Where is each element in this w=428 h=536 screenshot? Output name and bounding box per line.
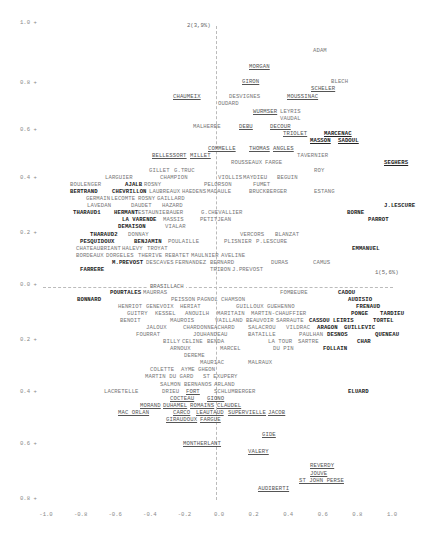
point-label: TRIBON: [210, 267, 231, 273]
x-tick-label: -0.2: [178, 512, 191, 518]
point-label: DEMAISON: [118, 224, 146, 230]
point-label: ROUSSEAUX: [231, 160, 262, 166]
point-label: VAUDAL: [280, 116, 301, 122]
point-label: GUILLEVIC: [344, 325, 375, 331]
point-label: ROY: [314, 168, 324, 174]
y-tick-label: 1.0 +: [20, 20, 37, 26]
point-label: EMMANUEL: [352, 246, 380, 252]
point-label: FOMBEURE: [280, 290, 308, 296]
point-label: CAMUS: [313, 260, 330, 266]
y-tick-label: 0.8 +: [20, 80, 37, 86]
point-label: SUPERVIELLE: [228, 410, 266, 416]
point-label: FERNANDEZ: [175, 260, 206, 266]
point-label: COMMELLE: [208, 146, 236, 152]
x-tick-label: 0.0: [214, 512, 224, 518]
x-tick-label: 0.4: [283, 512, 293, 518]
y-tick-label: 0.8 +: [20, 496, 37, 502]
x-tick-label: -0.8: [74, 512, 87, 518]
point-label: SEGHERS: [384, 160, 408, 166]
point-label: BENOIT: [120, 318, 141, 324]
point-label: FARRERE: [80, 267, 104, 273]
point-label: GIRON: [242, 79, 259, 85]
point-label: ANGLES: [273, 146, 294, 152]
point-label: BORDEAUX: [76, 253, 104, 259]
point-label: TORTEL: [373, 318, 394, 324]
point-label: WURMSER: [253, 109, 277, 115]
point-label: ESTANG: [314, 189, 335, 195]
point-label: JACOB: [268, 410, 285, 416]
point-label: MARTIN DU GARD: [145, 374, 193, 380]
point-label: DESNOS: [327, 332, 348, 338]
point-label: POURTALES: [110, 290, 141, 296]
point-label: M.PREVOST: [112, 260, 143, 266]
point-label: VIALAR: [165, 224, 186, 230]
point-label: MALRAUX: [248, 360, 272, 366]
point-label: FOLLAIN: [323, 346, 347, 352]
point-label: CHAR: [357, 339, 371, 345]
point-label: PLISNIER: [224, 239, 252, 245]
y-tick-label: 0.2 +: [20, 337, 37, 343]
y-tick-label: 0.4 +: [20, 175, 37, 181]
point-label: FARGE: [265, 160, 282, 166]
point-label: QUENEAU: [375, 332, 399, 338]
point-label: MARCEL: [220, 346, 241, 352]
point-label: GIRAUDOUX: [166, 417, 197, 423]
point-label: MAURRAS: [143, 290, 167, 296]
point-label: POULAILLE: [168, 239, 199, 245]
point-label: ST JOHN PERSE: [299, 478, 344, 484]
point-label: BEGUIN: [277, 175, 298, 181]
point-label: THOMAS: [249, 146, 270, 152]
point-label: BORNE: [347, 210, 364, 216]
x-tick-label: 0.8: [352, 512, 362, 518]
point-label: PETITJEAN: [200, 217, 231, 223]
point-label: MONTHERLANT: [183, 441, 221, 447]
point-label: SARTRE: [298, 339, 319, 345]
point-label: P.LESCURE: [256, 239, 287, 245]
point-label: GIDE: [262, 432, 276, 438]
point-label: HAEDENS: [182, 189, 206, 195]
point-label: DU PIN: [273, 346, 294, 352]
x-tick-label: 1.0: [387, 512, 397, 518]
point-label: VALERY: [248, 449, 269, 455]
point-label: FARGUE: [200, 417, 221, 423]
point-label: OUDARD: [218, 101, 239, 107]
point-label: J.PREVOST: [232, 267, 263, 273]
point-label: MASSON: [310, 138, 331, 144]
axis-2-label: 2(3,9%): [187, 23, 211, 29]
point-label: TRIOLET: [283, 131, 307, 137]
point-label: THARAUD1: [73, 210, 101, 216]
point-label: J.LESCURE: [384, 203, 415, 209]
x-tick-label: -0.6: [108, 512, 121, 518]
x-tick-label: 0.2: [249, 512, 259, 518]
point-label: FOURRAT: [136, 332, 160, 338]
y-tick-label: 0.2 +: [20, 230, 37, 236]
axis-1-label: 1(5,6%): [375, 270, 399, 276]
axis-1-line: [43, 287, 393, 288]
x-tick-label: -1.0: [39, 512, 52, 518]
x-tick-label: -0.4: [143, 512, 156, 518]
y-tick-label: 0.6 +: [20, 127, 37, 133]
y-tick-label: 0.4 +: [20, 389, 37, 395]
point-label: MADAULE: [207, 189, 231, 195]
point-label: AUDIBERTI: [258, 486, 289, 492]
correspondence-analysis-plot: 2(3,9%) 1(5,6%) BRASILLACH 1.0 +0.8 +0.6…: [0, 0, 428, 536]
point-label: REVERDY: [310, 463, 334, 469]
point-label: MOUSSINAC: [287, 94, 318, 100]
point-label: MILLET: [190, 153, 211, 159]
point-label: BELLESSORT: [152, 153, 187, 159]
point-label: ELUARD: [348, 389, 369, 395]
point-label: ST EXUPERY: [203, 374, 238, 380]
point-label: BRUCKBERGER: [249, 189, 287, 195]
point-label: SCHELER: [311, 86, 335, 92]
point-label: SADOUL: [338, 138, 359, 144]
point-label: LACRETELLE: [104, 389, 139, 395]
point-label: BONNARD: [77, 297, 101, 303]
point-label: DEBU: [239, 124, 253, 130]
y-tick-label: 0.6 +: [20, 441, 37, 447]
point-label: MORGAN: [249, 64, 270, 70]
point-label: PARROT: [368, 217, 389, 223]
point-label: DESCAVES: [146, 260, 174, 266]
point-label: CHAMPION: [160, 175, 188, 181]
point-label: DURAS: [271, 260, 288, 266]
point-label: ADAM: [313, 48, 327, 54]
